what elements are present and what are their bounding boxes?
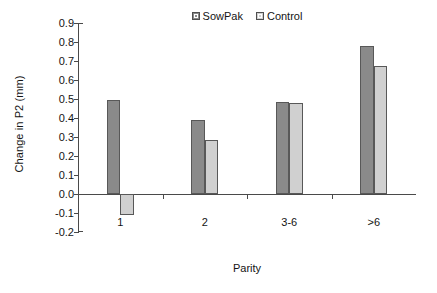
y-axis-tick bbox=[74, 156, 79, 157]
bar-control-1 bbox=[120, 194, 134, 215]
bar-control-36 bbox=[289, 103, 303, 194]
y-axis-tick-label: 0.3 bbox=[59, 131, 74, 143]
y-axis-tick-label: 0.9 bbox=[59, 17, 74, 29]
x-axis-tick-label: >6 bbox=[367, 216, 380, 228]
bar-sowpak-6 bbox=[360, 46, 374, 194]
y-axis-tick-label: 0.1 bbox=[59, 169, 74, 181]
y-axis-tick-label: 0.6 bbox=[59, 74, 74, 86]
x-axis-tick-label: 1 bbox=[117, 216, 123, 228]
y-axis-tick bbox=[74, 118, 79, 119]
legend-label-sowpak: SowPak bbox=[203, 10, 243, 22]
y-axis-tick bbox=[74, 137, 79, 138]
legend-swatch-icon-control bbox=[256, 12, 264, 20]
chart-legend: SowPak Control bbox=[78, 10, 416, 22]
x-axis-tick-label: 2 bbox=[202, 216, 208, 228]
bar-control-6 bbox=[374, 66, 388, 194]
y-axis-tick-label: 0.4 bbox=[59, 112, 74, 124]
y-axis-tick-label: 0.5 bbox=[59, 93, 74, 105]
y-axis-tick bbox=[74, 80, 79, 81]
bar-control-2 bbox=[205, 140, 219, 194]
legend-entry-sowpak: SowPak bbox=[192, 10, 243, 22]
y-axis-tick bbox=[74, 99, 79, 100]
y-axis-tick bbox=[74, 232, 79, 233]
x-axis-tick bbox=[332, 194, 333, 199]
y-axis-tick-label: -0.1 bbox=[55, 207, 74, 219]
legend-entry-control: Control bbox=[256, 10, 302, 22]
legend-swatch-icon-sowpak bbox=[192, 12, 200, 20]
y-axis-line bbox=[78, 23, 79, 232]
y-axis-tick bbox=[74, 213, 79, 214]
plot-area: SowPak Control 0.90.80.70.60.50.40.30.20… bbox=[78, 23, 416, 232]
y-axis-tick bbox=[74, 61, 79, 62]
x-axis-title: Parity bbox=[78, 262, 416, 274]
y-axis-tick bbox=[74, 175, 79, 176]
y-axis-tick-label: 0.0 bbox=[59, 188, 74, 200]
y-axis-tick-label: -0.2 bbox=[55, 226, 74, 238]
legend-label-control: Control bbox=[267, 10, 302, 22]
bar-sowpak-1 bbox=[107, 100, 121, 194]
bar-chart-figure: Change in P2 (mm) SowPak Control 0.90.80… bbox=[0, 0, 437, 293]
y-axis-tick bbox=[74, 42, 79, 43]
y-axis-tick-label: 0.7 bbox=[59, 55, 74, 67]
x-axis-tick bbox=[247, 194, 248, 199]
y-axis-tick bbox=[74, 23, 79, 24]
y-axis-title: Change in P2 (mm) bbox=[13, 39, 25, 209]
y-axis-tick-label: 0.8 bbox=[59, 36, 74, 48]
y-axis-tick-label: 0.2 bbox=[59, 150, 74, 162]
bar-sowpak-2 bbox=[191, 120, 205, 194]
x-axis-tick-label: 3-6 bbox=[281, 216, 297, 228]
bar-sowpak-36 bbox=[276, 102, 290, 194]
x-axis-tick bbox=[163, 194, 164, 199]
